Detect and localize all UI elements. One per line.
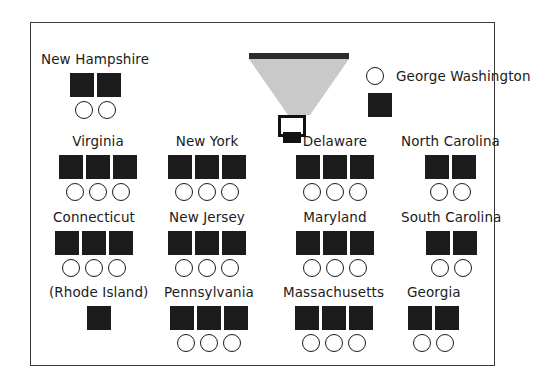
filled-square-icon xyxy=(350,231,374,255)
legend-row: George Washington xyxy=(366,67,531,85)
filled-square-icon xyxy=(86,155,110,179)
filled-square-icon xyxy=(168,231,192,255)
legend: George Washington xyxy=(366,67,535,125)
open-circle-icon xyxy=(430,183,448,201)
open-circle-icon xyxy=(325,334,343,352)
delegation-group: Pennsylvania xyxy=(164,286,254,352)
open-circle-icon xyxy=(108,259,126,277)
open-circle-icon xyxy=(175,183,193,201)
delegation-label: Delaware xyxy=(303,135,367,149)
filled-square-icon xyxy=(408,306,432,330)
circle-row xyxy=(177,334,241,352)
open-circle-icon xyxy=(303,183,321,201)
open-circle-icon xyxy=(200,334,218,352)
square-row xyxy=(70,73,121,97)
square-row xyxy=(425,155,476,179)
square-row xyxy=(168,231,246,255)
filled-square-icon xyxy=(323,155,347,179)
open-circle-icon xyxy=(221,183,239,201)
filled-square-icon xyxy=(97,73,121,97)
diagram-frame: George Washington New HampshireVirginiaN… xyxy=(30,22,495,366)
delegation-group: New Jersey xyxy=(168,211,246,277)
open-circle-icon xyxy=(326,183,344,201)
delegation-group: Virginia xyxy=(59,135,137,201)
square-row xyxy=(168,155,246,179)
open-circle-icon xyxy=(62,259,80,277)
square-row xyxy=(170,306,248,330)
delegation-group: South Carolina xyxy=(401,211,501,277)
open-circle-icon xyxy=(454,259,472,277)
filled-square-icon xyxy=(222,155,246,179)
open-circle-icon xyxy=(85,259,103,277)
delegation-label: Virginia xyxy=(72,135,124,149)
filled-square-icon xyxy=(453,231,477,255)
delegation-label: Connecticut xyxy=(53,211,135,225)
delegation-group: Georgia xyxy=(407,286,461,352)
circle-row xyxy=(62,259,126,277)
delegation-label: (Rhode Island) xyxy=(49,286,148,300)
filled-square-icon xyxy=(224,306,248,330)
filled-square-icon xyxy=(59,155,83,179)
delegation-label: Maryland xyxy=(303,211,366,225)
square-row xyxy=(408,306,459,330)
filled-square-icon xyxy=(195,231,219,255)
delegation-label: New Hampshire xyxy=(41,53,149,67)
filled-square-icon xyxy=(349,306,373,330)
filled-square-icon xyxy=(368,93,392,117)
open-circle-icon xyxy=(436,334,454,352)
filled-square-icon xyxy=(87,306,111,330)
circle-row xyxy=(431,259,472,277)
filled-square-icon xyxy=(426,231,450,255)
square-row xyxy=(55,231,133,255)
square-row xyxy=(295,306,373,330)
filled-square-icon xyxy=(195,155,219,179)
legend-square-wrap xyxy=(368,93,392,117)
filled-square-icon xyxy=(350,155,374,179)
filled-square-icon xyxy=(222,231,246,255)
filled-square-icon xyxy=(425,155,449,179)
delegation-label: South Carolina xyxy=(401,211,501,225)
filled-square-icon xyxy=(82,231,106,255)
circle-row xyxy=(302,334,366,352)
delegation-group: Massachusetts xyxy=(283,286,384,352)
delegation-label: New York xyxy=(176,135,239,149)
legend-label: George Washington xyxy=(396,68,531,84)
filled-square-icon xyxy=(197,306,221,330)
delegation-label: North Carolina xyxy=(401,135,500,149)
open-circle-icon xyxy=(198,259,216,277)
filled-square-icon xyxy=(70,73,94,97)
square-row xyxy=(296,155,374,179)
podium-assembly xyxy=(219,31,339,141)
delegation-group: (Rhode Island) xyxy=(49,286,148,330)
canopy-drape-icon xyxy=(249,59,349,115)
square-row xyxy=(87,306,111,330)
square-row xyxy=(296,231,374,255)
open-circle-icon xyxy=(413,334,431,352)
filled-square-icon xyxy=(113,155,137,179)
open-circle-icon xyxy=(75,101,93,119)
circle-row xyxy=(175,259,239,277)
open-circle-icon xyxy=(175,259,193,277)
delegation-label: Georgia xyxy=(407,286,461,300)
open-circle-icon xyxy=(326,259,344,277)
circle-row xyxy=(175,183,239,201)
delegation-group: Connecticut xyxy=(53,211,135,277)
square-row xyxy=(426,231,477,255)
circle-row xyxy=(66,183,130,201)
open-circle-icon xyxy=(89,183,107,201)
delegation-group: New Hampshire xyxy=(41,53,149,119)
open-circle-icon xyxy=(302,334,320,352)
delegation-group: New York xyxy=(168,135,246,201)
delegation-label: Massachusetts xyxy=(283,286,384,300)
open-circle-icon xyxy=(349,259,367,277)
circle-row xyxy=(303,259,367,277)
circle-row xyxy=(430,183,471,201)
open-circle-icon xyxy=(431,259,449,277)
filled-square-icon xyxy=(296,155,320,179)
delegation-label: Pennsylvania xyxy=(164,286,254,300)
filled-square-icon xyxy=(295,306,319,330)
open-circle-icon xyxy=(303,259,321,277)
filled-square-icon xyxy=(452,155,476,179)
filled-square-icon xyxy=(55,231,79,255)
